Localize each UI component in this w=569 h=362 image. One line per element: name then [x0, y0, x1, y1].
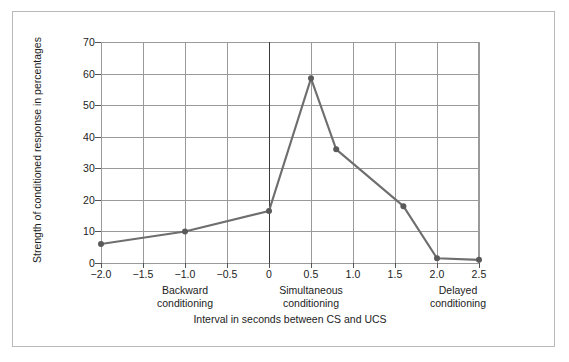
y-axis-tick-label: 10 [67, 225, 95, 237]
y-axis-tick-label: 20 [67, 194, 95, 206]
data-point-marker [308, 75, 314, 81]
x-axis-label: Interval in seconds between CS and UCS [101, 313, 479, 325]
x-axis-tick-mark [143, 263, 144, 268]
data-series-line [101, 42, 479, 263]
data-point-marker [400, 203, 406, 209]
x-axis-tick-mark [353, 263, 354, 268]
y-axis-tick-label: 50 [67, 99, 95, 111]
x-axis-tick-label: −1.5 [121, 268, 165, 280]
data-point-marker [434, 255, 440, 261]
y-axis-tick-labels: 010203040506070 [63, 42, 95, 263]
y-axis-tick-label: 30 [67, 162, 95, 174]
x-axis-tick-labels: −2.0−1.5−1.0−0.500.51.01.52.02.5 [101, 268, 479, 284]
data-point-marker [333, 146, 339, 152]
x-axis-tick-label: −0.5 [205, 268, 249, 280]
annotation-line-2: conditioning [403, 297, 513, 310]
data-point-marker [182, 228, 188, 234]
y-axis-tick-label: 70 [67, 36, 95, 48]
gridline-vertical [479, 42, 480, 263]
data-point-marker [476, 257, 482, 263]
x-axis-tick-label: 2.5 [457, 268, 501, 280]
x-axis-tick-label: 0 [247, 268, 291, 280]
x-axis-tick-label: 1.0 [331, 268, 375, 280]
x-axis-tick-label: 1.5 [373, 268, 417, 280]
annotation-line-2: conditioning [256, 297, 366, 310]
annotation-line-2: conditioning [130, 297, 240, 310]
x-axis-tick-mark [311, 263, 312, 268]
annotation-line-1: Simultaneous [256, 284, 366, 297]
annotation-backward-conditioning: Backwardconditioning [130, 284, 240, 310]
annotation-delayed-conditioning: Delayedconditioning [403, 284, 513, 310]
data-point-marker [266, 208, 272, 214]
x-axis-tick-mark [185, 263, 186, 268]
x-axis-tick-mark [269, 263, 270, 268]
annotation-simultaneous-conditioning: Simultaneousconditioning [256, 284, 366, 310]
plot-area [101, 42, 479, 263]
y-axis-tick-label: 60 [67, 68, 95, 80]
x-axis-tick-label: 2.0 [415, 268, 459, 280]
x-axis-tick-mark [437, 263, 438, 268]
x-axis-tick-mark [395, 263, 396, 268]
data-point-marker [98, 241, 104, 247]
x-axis-tick-mark [101, 263, 102, 268]
x-axis-tick-label: 0.5 [289, 268, 333, 280]
annotation-line-1: Backward [130, 284, 240, 297]
x-axis-tick-mark [479, 263, 480, 268]
x-axis-tick-mark [227, 263, 228, 268]
series-line [101, 78, 479, 260]
x-axis-tick-label: −2.0 [79, 268, 123, 280]
y-axis-tick-label: 40 [67, 131, 95, 143]
figure: Strength of conditioned response in perc… [0, 0, 569, 362]
annotation-line-1: Delayed [403, 284, 513, 297]
gridline-horizontal [101, 263, 479, 264]
x-axis-tick-label: −1.0 [163, 268, 207, 280]
y-axis-label: Strength of conditioned response in perc… [28, 42, 46, 263]
